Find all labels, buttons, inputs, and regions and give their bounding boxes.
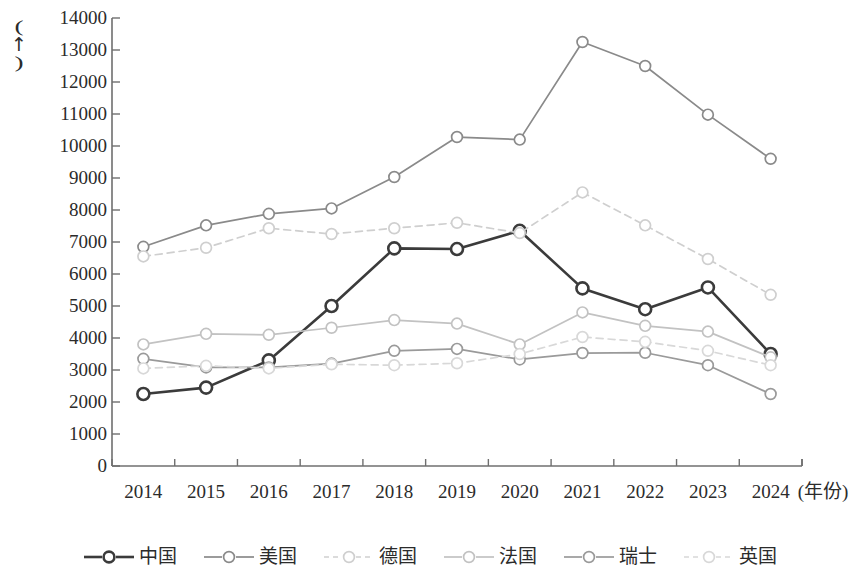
x-axis-tick-label: 2024 <box>752 482 790 501</box>
data-point <box>640 61 651 72</box>
x-axis-tick-label: 2018 <box>375 482 413 501</box>
data-point <box>452 132 463 143</box>
data-point <box>389 345 400 356</box>
data-point <box>452 343 463 354</box>
data-point <box>388 242 400 254</box>
legend-marker-icon <box>323 549 375 565</box>
x-axis-tick-label: 2014 <box>124 482 162 501</box>
data-point <box>765 289 776 300</box>
legend-marker-icon <box>563 549 615 565</box>
data-point <box>640 320 651 331</box>
data-point <box>201 242 212 253</box>
data-point <box>640 336 651 347</box>
legend-label: 瑞士 <box>619 547 657 566</box>
x-axis-tick-label: 2016 <box>250 482 288 501</box>
data-point <box>703 326 714 337</box>
legend-marker-circle <box>103 551 114 562</box>
data-point <box>514 228 525 239</box>
x-axis-tick-label: 2023 <box>689 482 727 501</box>
legend-marker-circle <box>343 551 354 562</box>
data-point <box>389 360 400 371</box>
data-point <box>326 300 338 312</box>
data-point <box>326 359 337 370</box>
legend-item-英国[interactable]: 英国 <box>683 547 777 566</box>
data-point <box>765 360 776 371</box>
x-axis-tick-label: 2015 <box>187 482 225 501</box>
data-point <box>389 172 400 183</box>
data-point <box>514 349 525 360</box>
x-axis-tick-label: 2022 <box>626 482 664 501</box>
data-point <box>138 339 149 350</box>
legend-marker-circle <box>463 551 474 562</box>
series-5 <box>138 343 776 399</box>
data-point <box>639 303 651 315</box>
data-point <box>201 360 212 371</box>
x-axis-tick-label: 2021 <box>563 482 601 501</box>
legend-marker-icon <box>443 549 495 565</box>
data-point <box>577 37 588 48</box>
legend-marker-circle <box>583 551 594 562</box>
data-point <box>389 315 400 326</box>
data-point <box>703 254 714 265</box>
data-point <box>326 322 337 333</box>
data-point <box>703 360 714 371</box>
legend-item-法国[interactable]: 法国 <box>443 547 537 566</box>
data-point <box>452 217 463 228</box>
data-point <box>577 187 588 198</box>
legend-label: 英国 <box>739 547 777 566</box>
data-point <box>514 134 525 145</box>
legend-label: 美国 <box>259 547 297 566</box>
data-point <box>640 347 651 358</box>
legend-marker-icon <box>83 549 135 565</box>
data-point <box>577 348 588 359</box>
data-point <box>138 251 149 262</box>
x-axis-tick-label: 2017 <box>313 482 351 501</box>
data-point <box>703 109 714 120</box>
data-point <box>200 382 212 394</box>
data-point <box>577 332 588 343</box>
legend-label: 中国 <box>139 547 177 566</box>
data-point <box>452 358 463 369</box>
legend-marker-icon <box>683 549 735 565</box>
data-point <box>138 363 149 374</box>
data-point <box>263 363 274 374</box>
series-line <box>143 42 770 247</box>
x-axis-unit-label: (年份) <box>798 482 849 501</box>
data-point <box>765 153 776 164</box>
legend-item-德国[interactable]: 德国 <box>323 547 417 566</box>
data-point <box>389 223 400 234</box>
data-point <box>576 282 588 294</box>
data-point <box>201 328 212 339</box>
data-point <box>703 345 714 356</box>
series-1 <box>137 225 776 400</box>
data-point <box>326 203 337 214</box>
legend-item-瑞士[interactable]: 瑞士 <box>563 547 657 566</box>
series-line <box>143 349 770 394</box>
x-axis-tick-label: 2020 <box>501 482 539 501</box>
chart-legend: 中国美国德国法国瑞士英国 <box>0 540 859 573</box>
legend-item-中国[interactable]: 中国 <box>83 547 177 566</box>
data-point <box>577 307 588 318</box>
data-point <box>263 329 274 340</box>
x-axis-tick-labels: 2014201520162017201820192020202120222023… <box>0 482 859 512</box>
data-point <box>201 220 212 231</box>
legend-label: 法国 <box>499 547 537 566</box>
data-point <box>702 281 714 293</box>
data-point <box>451 243 463 255</box>
line-chart: ( ↑ ) 1400013000120001100010000900080007… <box>0 0 859 573</box>
data-point <box>263 208 274 219</box>
legend-marker-icon <box>203 549 255 565</box>
legend-marker-circle <box>223 551 234 562</box>
data-point <box>326 229 337 240</box>
data-point <box>263 223 274 234</box>
legend-item-美国[interactable]: 美国 <box>203 547 297 566</box>
data-point <box>137 388 149 400</box>
data-point <box>765 389 776 400</box>
x-axis-tick-label: 2019 <box>438 482 476 501</box>
data-point <box>452 318 463 329</box>
data-point <box>640 220 651 231</box>
legend-label: 德国 <box>379 547 417 566</box>
legend-marker-circle <box>703 551 714 562</box>
